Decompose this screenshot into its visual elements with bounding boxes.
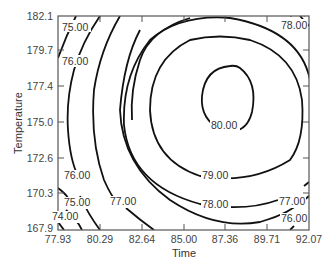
contour-label: 74.00: [52, 210, 78, 222]
contour-plot: Temperature Time 182.1 179.7 177.4 175.0…: [0, 0, 336, 264]
x-tick-label: 85.00: [171, 233, 197, 245]
y-tick-label: 177.4: [27, 80, 53, 92]
contour-label: 78.00: [281, 19, 307, 31]
y-tick-label: 182.1: [27, 10, 53, 22]
contour-label: 78.00: [202, 198, 228, 210]
contour-label: 79.00: [202, 169, 228, 181]
y-tick-label: 170.3: [27, 187, 53, 199]
x-tick-label: 89.71: [254, 233, 280, 245]
x-tick-label: 82.64: [129, 233, 155, 245]
contour-label: 75.00: [62, 21, 88, 33]
contour-labels: 75.00 76.00 78.00 80.00 79.00 78.00 77.0…: [51, 19, 308, 225]
contour-78-arc: [132, 18, 190, 120]
contour-label: 75.00: [64, 196, 90, 208]
contour-label: 76.00: [62, 55, 88, 67]
x-tick-labels: 77.93 80.29 82.64 85.00 87.36 89.71 92.0…: [45, 233, 322, 245]
contour-79: [150, 37, 303, 179]
contour-74: [58, 222, 64, 230]
y-tick-labels: 182.1 179.7 177.4 175.0 172.6 170.3 167.…: [27, 10, 53, 234]
y-tick-label: 179.7: [27, 44, 53, 56]
y-tick-label: 175.0: [27, 116, 53, 128]
contour-label: 76.00: [64, 169, 90, 181]
y-axis-title: Temperature: [12, 92, 24, 154]
contour-label: 77.00: [279, 195, 305, 207]
contour-label: 77.00: [110, 195, 136, 207]
x-axis-title: Time: [172, 247, 196, 259]
x-tick-label: 77.93: [45, 233, 71, 245]
contour-label: 80.00: [211, 119, 237, 131]
x-tick-label: 92.07: [296, 233, 322, 245]
x-tick-label: 80.29: [87, 233, 113, 245]
contour-lines: [58, 14, 310, 230]
contour-label: 76.00: [281, 212, 307, 224]
contour-76-right: [290, 226, 294, 230]
y-tick-label: 172.6: [27, 152, 53, 164]
x-tick-label: 87.36: [212, 233, 238, 245]
